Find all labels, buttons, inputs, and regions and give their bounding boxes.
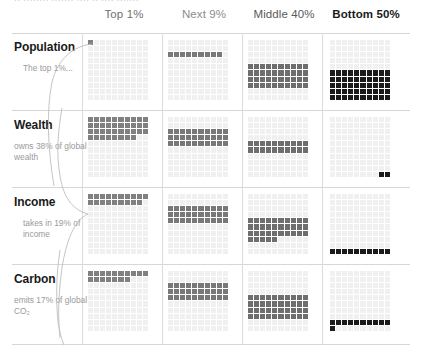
waffle-cell bbox=[297, 135, 302, 140]
waffle-cell bbox=[112, 289, 117, 294]
waffle-cell bbox=[248, 200, 253, 205]
waffle-cell bbox=[248, 129, 253, 134]
waffle-cell bbox=[143, 83, 148, 88]
waffle-cell bbox=[278, 212, 283, 217]
waffle-cell bbox=[192, 231, 197, 236]
waffle-cell bbox=[254, 314, 259, 319]
waffle-cell bbox=[137, 308, 142, 313]
waffle-cell bbox=[291, 70, 296, 75]
waffle-cell bbox=[205, 320, 210, 325]
waffle-cell bbox=[297, 89, 302, 94]
waffle-cell bbox=[260, 89, 265, 94]
waffle-cell bbox=[342, 301, 347, 306]
waffle-cell bbox=[125, 271, 130, 276]
waffle-cell bbox=[94, 83, 99, 88]
waffle-cell bbox=[100, 64, 105, 69]
waffle-cell bbox=[180, 70, 185, 75]
waffle-cell bbox=[254, 52, 259, 57]
waffle-cell bbox=[211, 83, 216, 88]
waffle-cell bbox=[192, 277, 197, 282]
waffle-population-col1 bbox=[88, 40, 148, 100]
waffle-cell bbox=[205, 141, 210, 146]
waffle-cell bbox=[348, 141, 353, 146]
waffle-cell bbox=[354, 320, 359, 325]
waffle-cell bbox=[373, 135, 378, 140]
waffle-cell bbox=[297, 243, 302, 248]
waffle-cell bbox=[174, 154, 179, 159]
waffle-cell bbox=[131, 160, 136, 165]
waffle-cell bbox=[278, 224, 283, 229]
waffle-cell bbox=[106, 314, 111, 319]
waffle-cell bbox=[278, 289, 283, 294]
waffle-cell bbox=[112, 218, 117, 223]
waffle-cell bbox=[260, 58, 265, 63]
waffle-cell bbox=[266, 95, 271, 100]
waffle-cell bbox=[180, 52, 185, 57]
waffle-cell bbox=[100, 172, 105, 177]
waffle-cell bbox=[143, 224, 148, 229]
waffle-cell bbox=[360, 271, 365, 276]
waffle-cell bbox=[373, 70, 378, 75]
waffle-cell bbox=[186, 46, 191, 51]
waffle-cell bbox=[198, 326, 203, 331]
waffle-cell bbox=[266, 212, 271, 217]
waffle-cell bbox=[180, 194, 185, 199]
waffle-cell bbox=[143, 129, 148, 134]
waffle-cell bbox=[266, 231, 271, 236]
waffle-cell bbox=[385, 172, 390, 177]
waffle-cell bbox=[260, 289, 265, 294]
waffle-cell bbox=[291, 295, 296, 300]
waffle-cell bbox=[217, 77, 222, 82]
waffle-cell bbox=[192, 301, 197, 306]
waffle-cell bbox=[198, 135, 203, 140]
waffle-cell bbox=[373, 129, 378, 134]
waffle-cell bbox=[186, 52, 191, 57]
waffle-cell bbox=[192, 326, 197, 331]
waffle-cell bbox=[192, 320, 197, 325]
waffle-cell bbox=[186, 237, 191, 242]
waffle-cell bbox=[217, 289, 222, 294]
waffle-cell bbox=[106, 218, 111, 223]
waffle-cell bbox=[297, 58, 302, 63]
waffle-cell bbox=[254, 218, 259, 223]
waffle-cell bbox=[137, 301, 142, 306]
waffle-cell bbox=[348, 52, 353, 57]
waffle-cell bbox=[131, 58, 136, 63]
waffle-cell bbox=[137, 83, 142, 88]
waffle-cell bbox=[285, 194, 290, 199]
waffle-cell bbox=[106, 58, 111, 63]
waffle-cell bbox=[112, 64, 117, 69]
waffle-cell bbox=[254, 243, 259, 248]
waffle-cell bbox=[297, 46, 302, 51]
waffle-cell bbox=[131, 123, 136, 128]
waffle-cell bbox=[266, 123, 271, 128]
waffle-cell bbox=[198, 147, 203, 152]
waffle-cell bbox=[266, 326, 271, 331]
waffle-cell bbox=[198, 283, 203, 288]
waffle-cell bbox=[291, 237, 296, 242]
waffle-cell bbox=[118, 206, 123, 211]
waffle-cell bbox=[367, 135, 372, 140]
waffle-cell bbox=[211, 289, 216, 294]
waffle-cell bbox=[217, 154, 222, 159]
waffle-cell bbox=[137, 237, 142, 242]
waffle-cell bbox=[354, 218, 359, 223]
waffle-cell bbox=[330, 95, 335, 100]
waffle-cell bbox=[143, 231, 148, 236]
waffle-cell bbox=[94, 289, 99, 294]
waffle-cell bbox=[131, 141, 136, 146]
waffle-cell bbox=[100, 70, 105, 75]
waffle-cell bbox=[118, 141, 123, 146]
waffle-cell bbox=[360, 295, 365, 300]
waffle-cell bbox=[291, 129, 296, 134]
waffle-cell bbox=[291, 194, 296, 199]
waffle-cell bbox=[330, 289, 335, 294]
waffle-cell bbox=[348, 40, 353, 45]
waffle-cell bbox=[192, 166, 197, 171]
waffle-cell bbox=[180, 206, 185, 211]
waffle-cell bbox=[168, 314, 173, 319]
waffle-cell bbox=[131, 243, 136, 248]
waffle-cell bbox=[125, 237, 130, 242]
waffle-cell bbox=[137, 326, 142, 331]
waffle-cell bbox=[360, 160, 365, 165]
